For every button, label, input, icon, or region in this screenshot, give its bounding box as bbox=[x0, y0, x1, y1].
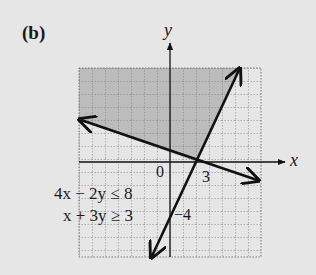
inequality-1: 4x − 2y ≤ 8 bbox=[54, 184, 132, 204]
graph bbox=[0, 0, 316, 275]
x-axis-label: x bbox=[290, 150, 298, 171]
y-tick-neg4: −4 bbox=[174, 206, 191, 224]
y-axis-label: y bbox=[164, 20, 172, 41]
origin-label: 0 bbox=[156, 163, 164, 181]
inequality-2: x + 3y ≥ 3 bbox=[63, 206, 133, 226]
x-tick-3: 3 bbox=[202, 168, 210, 186]
panel-label: (b) bbox=[22, 22, 45, 44]
